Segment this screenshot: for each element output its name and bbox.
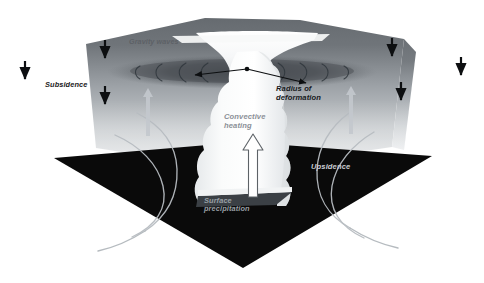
convection-schematic-figure: Subsidence Gravity waves Radius of defor…	[0, 0, 484, 283]
flow-line-right-tail	[350, 228, 398, 248]
schematic-canvas	[0, 0, 484, 283]
